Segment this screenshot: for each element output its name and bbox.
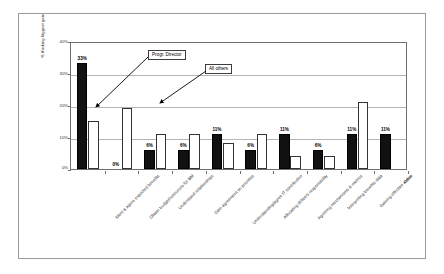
- bar-all-others: [88, 121, 99, 169]
- bar-progr-director: [380, 134, 391, 169]
- y-tick-label: 30%: [44, 72, 68, 76]
- gridline-30: [71, 75, 406, 76]
- bar-all-others: [290, 156, 301, 169]
- x-tick-mark: [105, 171, 106, 174]
- y-tick-label: 10%: [44, 136, 68, 140]
- bar-value-label: 11%: [209, 128, 226, 133]
- bar-all-others: [223, 143, 234, 169]
- bar-value-label: 11%: [276, 128, 293, 133]
- bar-progr-director: [313, 150, 324, 169]
- x-tick-mark: [374, 171, 375, 174]
- y-tick-label: 0%: [44, 166, 68, 170]
- bar-all-others: [122, 108, 133, 169]
- y-tick-mark: [68, 170, 71, 171]
- x-tick-mark: [307, 171, 308, 174]
- bar-progr-director: [347, 134, 358, 169]
- x-tick-mark: [138, 171, 139, 174]
- x-tick-mark: [172, 171, 173, 174]
- bar-progr-director: [77, 63, 88, 169]
- bar-value-label: 11%: [377, 128, 394, 133]
- bar-value-label: 6%: [310, 144, 327, 149]
- x-tick-mark: [341, 171, 342, 174]
- plot-area: 33%0%6%6%11%6%11%6%11%11%: [70, 42, 407, 170]
- x-tick-mark: [206, 171, 207, 174]
- bar-progr-director: [279, 134, 290, 169]
- x-tick-mark: [240, 171, 241, 174]
- bar-progr-director: [144, 150, 155, 169]
- x-tick-mark: [273, 171, 274, 174]
- bar-all-others: [156, 134, 167, 169]
- y-tick-label: 20%: [44, 104, 68, 108]
- bar-progr-director: [245, 150, 256, 169]
- callout-all-others: All others: [205, 64, 232, 74]
- callout-progr-director: Progr. Director: [148, 50, 186, 60]
- bar-progr-director: [178, 150, 189, 169]
- y-axis-tick-labels: 40% 30% 20% 10% 0%: [44, 42, 68, 170]
- figure-page: % thinking biggest gain 40% 30% 20% 10% …: [0, 0, 444, 274]
- bar-all-others: [189, 134, 200, 169]
- y-tick-label: 40%: [44, 40, 68, 44]
- bar-progr-director: [212, 134, 223, 169]
- bar-value-label: 33%: [74, 57, 91, 62]
- bar-all-others: [257, 134, 268, 169]
- bar-all-others: [324, 156, 335, 169]
- bar-all-others: [358, 102, 369, 169]
